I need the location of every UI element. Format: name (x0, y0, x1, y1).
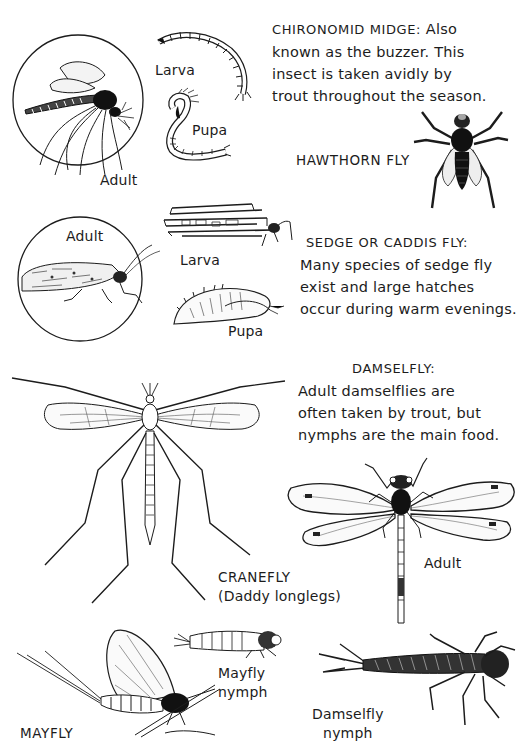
sedge-adult-label: Adult (66, 228, 103, 244)
damselfly-adult-label: Adult (424, 555, 461, 571)
label-line: nymph (312, 724, 384, 743)
chironomid-title: CHIRONOMID MIDGE: (272, 22, 421, 37)
damselfly-caption: DAMSELFLY: Adult damselflies are often t… (298, 358, 499, 446)
sedge-title: SEDGE OR CADDIS FLY: (300, 232, 517, 254)
caption-line: Adult damselflies are (298, 380, 499, 402)
hawthorn-title: HAWTHORN FLY (296, 152, 410, 168)
sedge-pupa-label: Pupa (228, 323, 263, 339)
label-line: nymph (218, 683, 268, 702)
mayfly-nymph-illustration (172, 620, 292, 660)
chironomid-pupa-label: Pupa (192, 122, 227, 138)
caption-line: trout throughout the season. (272, 85, 487, 107)
caption-line: insect is taken avidly by (272, 63, 487, 85)
hawthorn-fly-illustration (412, 108, 512, 213)
sedge-larva-illustration (162, 200, 297, 250)
caption-line: often taken by trout, but (298, 402, 499, 424)
caption-line: exist and large hatches (300, 276, 517, 298)
label-line: Damselfly (312, 705, 384, 724)
caption-line: occur during warm evenings. (300, 298, 517, 320)
chironomid-larva-label: Larva (155, 62, 195, 78)
mayfly-title: MAYFLY (20, 725, 73, 741)
sedge-larva-label: Larva (180, 252, 220, 268)
caption-line: known as the buzzer. This (272, 41, 487, 63)
chironomid-caption: CHIRONOMID MIDGE: Also known as the buzz… (272, 18, 487, 107)
damselfly-nymph-label: Damselfly nymph (312, 705, 384, 743)
caption-line: nymphs are the main food. (298, 424, 499, 446)
label-line: Mayfly (218, 664, 268, 683)
chironomid-adult-label: Adult (100, 172, 137, 188)
mayfly-nymph-label: Mayfly nymph (218, 664, 268, 702)
sedge-caption: SEDGE OR CADDIS FLY: Many species of sed… (300, 232, 517, 320)
damselfly-adult-illustration (283, 458, 518, 628)
caption-line: Many species of sedge fly (300, 254, 517, 276)
caption-line: Also (426, 21, 457, 37)
cranefly-illustration (10, 375, 290, 595)
damselfly-title: DAMSELFLY: (298, 358, 499, 380)
chironomid-adult-illustration (10, 30, 150, 175)
